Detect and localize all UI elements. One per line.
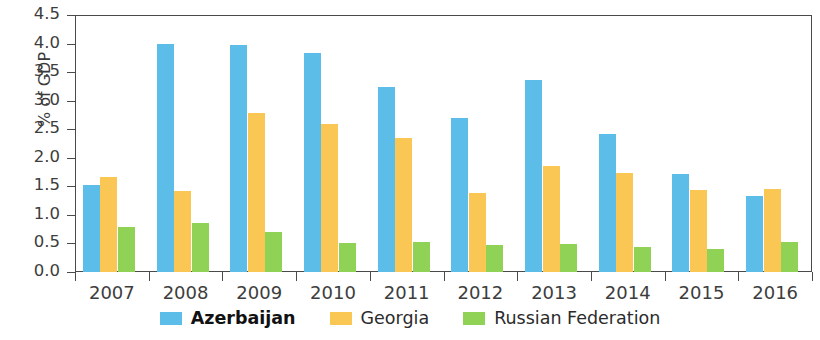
x-tick-mark (75, 272, 76, 281)
legend-label: Azerbaijan (191, 308, 296, 328)
bar-russian-federation-2014 (634, 247, 651, 272)
y-tick-label: 3.5 (14, 63, 60, 80)
bar-russian-federation-2013 (560, 244, 577, 272)
bar-chart: % of GDP 0.00.51.01.52.02.53.03.54.04.5 … (0, 0, 820, 340)
x-tick-mark (444, 272, 445, 281)
bar-russian-federation-2016 (781, 242, 798, 272)
bar-russian-federation-2008 (192, 223, 209, 272)
legend-label: Russian Federation (494, 308, 660, 328)
bar-azerbaijan-2015 (672, 174, 689, 272)
x-tick-mark (665, 272, 666, 281)
bar-georgia-2008 (174, 191, 191, 272)
y-tick-label: 0.0 (14, 263, 60, 280)
bar-azerbaijan-2007 (83, 185, 100, 272)
bar-georgia-2012 (469, 193, 486, 272)
legend-swatch-icon (330, 312, 352, 325)
y-tick-label: 1.0 (14, 206, 60, 223)
bar-azerbaijan-2010 (304, 53, 321, 272)
x-tick-mark (296, 272, 297, 281)
y-tick-label: 0.5 (14, 234, 60, 251)
bar-russian-federation-2012 (486, 245, 503, 272)
legend-swatch-icon (160, 312, 182, 325)
bar-russian-federation-2010 (339, 243, 356, 272)
bar-azerbaijan-2008 (157, 44, 174, 272)
x-axis-label-2016: 2016 (730, 283, 820, 303)
bars-layer (75, 15, 812, 272)
bar-georgia-2016 (764, 189, 781, 272)
bar-azerbaijan-2011 (378, 87, 395, 272)
x-tick-mark (149, 272, 150, 281)
x-tick-mark (370, 272, 371, 281)
x-tick-mark (222, 272, 223, 281)
legend-label: Georgia (361, 308, 430, 328)
y-tick-label: 1.5 (14, 177, 60, 194)
y-tick-label: 4.5 (14, 6, 60, 23)
bar-russian-federation-2011 (413, 242, 430, 272)
bar-georgia-2010 (321, 124, 338, 272)
bar-georgia-2007 (100, 177, 117, 272)
bar-russian-federation-2015 (707, 249, 724, 272)
bar-russian-federation-2007 (118, 227, 135, 272)
bar-azerbaijan-2016 (746, 196, 763, 272)
bar-georgia-2014 (616, 173, 633, 272)
bar-azerbaijan-2009 (230, 45, 247, 272)
x-tick-mark (517, 272, 518, 281)
x-tick-mark (812, 272, 813, 281)
legend-swatch-icon (463, 312, 485, 325)
x-tick-mark (591, 272, 592, 281)
bar-georgia-2015 (690, 190, 707, 272)
y-tick-label: 2.5 (14, 120, 60, 137)
legend-item-georgia[interactable]: Georgia (330, 308, 430, 328)
legend-item-azerbaijan[interactable]: Azerbaijan (160, 308, 296, 328)
x-tick-mark (738, 272, 739, 281)
y-tick-label: 4.0 (14, 35, 60, 52)
y-tick-label: 2.0 (14, 149, 60, 166)
chart-legend: AzerbaijanGeorgiaRussian Federation (0, 308, 820, 328)
legend-item-russian-federation[interactable]: Russian Federation (463, 308, 660, 328)
bar-georgia-2013 (543, 166, 560, 272)
bar-georgia-2009 (248, 113, 265, 272)
y-tick-label: 3.0 (14, 92, 60, 109)
bar-azerbaijan-2014 (599, 134, 616, 272)
bar-azerbaijan-2012 (451, 118, 468, 272)
bar-russian-federation-2009 (265, 232, 282, 272)
bar-azerbaijan-2013 (525, 80, 542, 272)
bar-georgia-2011 (395, 138, 412, 272)
